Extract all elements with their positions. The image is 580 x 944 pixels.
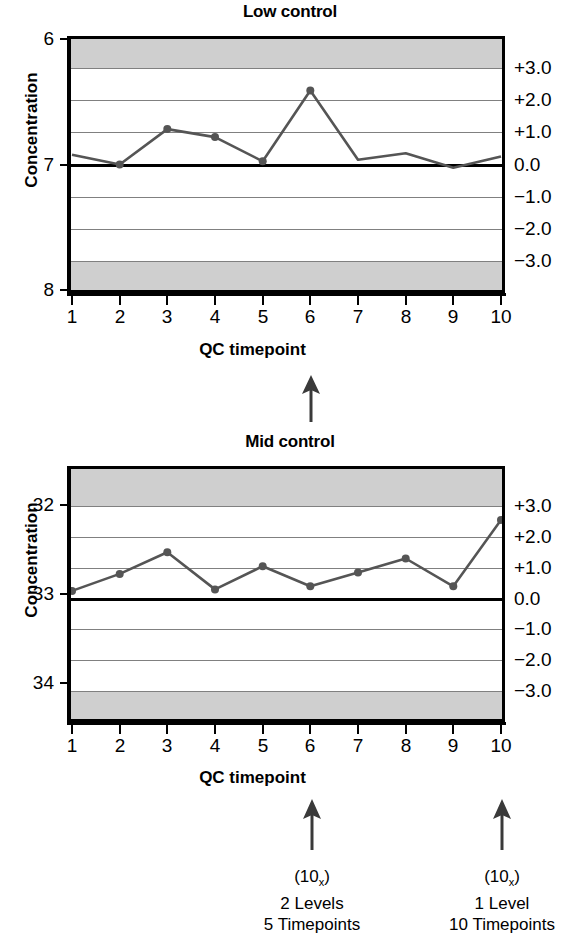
note-left-line3: 5 Timepoints (222, 914, 402, 935)
x-axis-label: 5 (243, 306, 283, 328)
up-arrow-icon-left-note (297, 798, 327, 852)
data-point-marker (163, 125, 171, 133)
data-point-marker (163, 548, 171, 556)
x-axis-tick (71, 725, 73, 734)
x-axis-tick (214, 296, 216, 305)
sd-axis-label: +2.0 (514, 89, 552, 111)
sd-axis-label: −2.0 (514, 649, 552, 671)
x-axis-label: 3 (147, 735, 187, 757)
sd-axis-label: +1.0 (514, 557, 552, 579)
x-axis-tick (166, 725, 168, 734)
x-axis-label: 4 (195, 735, 235, 757)
chart-panel-low-control: Low control 876 −3.0−2.0−1.00.0+1.0+2.0+… (0, 0, 580, 360)
x-axis-spine (67, 293, 506, 296)
x-axis-label: 2 (100, 306, 140, 328)
series-line-low-control (71, 39, 502, 290)
x-axis-tick (309, 296, 311, 305)
note-right-line3: 10 Timepoints (412, 914, 580, 935)
x-axis-label: 8 (386, 735, 426, 757)
sd-axis-label: +2.0 (514, 526, 552, 548)
x-axis-tick (452, 725, 454, 734)
x-axis-tick (309, 725, 311, 734)
series-polyline (72, 520, 501, 591)
data-point-marker (354, 568, 362, 576)
data-point-marker (449, 582, 457, 590)
sd-axis-label: −3.0 (514, 250, 552, 272)
y-axis-label: 8 (2, 279, 54, 301)
data-point-marker (306, 87, 314, 95)
x-axis-tick (119, 296, 121, 305)
sd-axis-label: −2.0 (514, 218, 552, 240)
note-left: (10x) 2 Levels 5 Timepoints (222, 866, 402, 935)
sd-axis-label: −1.0 (514, 618, 552, 640)
data-point-marker (71, 587, 76, 595)
x-axis-label: 6 (290, 306, 330, 328)
x-axis-label: 3 (147, 306, 187, 328)
chart-title-mid-control: Mid control (0, 432, 580, 452)
x-axis-label: 9 (433, 306, 473, 328)
y-axis-title-low-control: Concentration (22, 60, 42, 200)
x-axis-label: 7 (338, 306, 378, 328)
x-axis-label: 1 (52, 306, 92, 328)
note-left-line1: (10x) (222, 866, 402, 893)
data-point-marker (116, 570, 124, 578)
x-axis-tick (262, 725, 264, 734)
figure-root: Low control 876 −3.0−2.0−1.00.0+1.0+2.0+… (0, 0, 580, 944)
data-point-marker (211, 133, 219, 141)
note-right: (10x) 1 Level 10 Timepoints (412, 866, 580, 935)
x-axis-spine (67, 722, 506, 725)
x-axis-tick (500, 296, 502, 305)
x-axis-tick (71, 296, 73, 305)
x-axis-tick (262, 296, 264, 305)
data-point-marker (211, 585, 219, 593)
x-axis-title-mid-control: QC timepoint (34, 768, 471, 788)
x-axis-tick (405, 296, 407, 305)
x-axis-label: 8 (386, 306, 426, 328)
sd-axis-label: 0.0 (514, 588, 540, 610)
up-arrow-icon-between-charts (296, 374, 326, 424)
x-axis-label: 9 (433, 735, 473, 757)
x-axis-label: 10 (481, 735, 521, 757)
x-axis-tick (405, 725, 407, 734)
x-axis-label: 1 (52, 735, 92, 757)
x-axis-tick (452, 296, 454, 305)
x-axis-label: 2 (100, 735, 140, 757)
x-axis-tick (214, 725, 216, 734)
x-axis-label: 7 (338, 735, 378, 757)
x-axis-tick (166, 296, 168, 305)
sd-axis-label: −3.0 (514, 680, 552, 702)
data-point-marker (402, 555, 410, 563)
data-point-marker (259, 157, 267, 165)
note-right-line2: 1 Level (412, 893, 580, 914)
sd-axis-label: +3.0 (514, 495, 552, 517)
sd-axis-label: +1.0 (514, 121, 552, 143)
x-axis-tick (357, 725, 359, 734)
y-axis-label: 34 (2, 672, 54, 694)
x-axis-tick (119, 725, 121, 734)
plot-area-low-control (68, 36, 505, 293)
plot-area-mid-control (68, 466, 505, 722)
x-axis-label: 6 (290, 735, 330, 757)
series-line-mid-control (71, 469, 502, 719)
x-axis-label: 5 (243, 735, 283, 757)
note-left-line2: 2 Levels (222, 893, 402, 914)
chart-panel-mid-control: Mid control 343332 −3.0−2.0−1.00.0+1.0+2… (0, 430, 580, 790)
sd-axis-label: 0.0 (514, 154, 540, 176)
chart-title-low-control: Low control (0, 2, 580, 22)
series-polyline (72, 91, 501, 168)
y-axis-spine (67, 36, 70, 293)
x-axis-label: 4 (195, 306, 235, 328)
x-axis-title-low-control: QC timepoint (34, 340, 471, 360)
sd-axis-label: +3.0 (514, 57, 552, 79)
data-point-marker (306, 582, 314, 590)
y-axis-title-mid-control: Concentration (22, 490, 42, 630)
x-axis-label: 10 (481, 306, 521, 328)
note-right-line1: (10x) (412, 866, 580, 893)
y-axis-label: 6 (2, 28, 54, 50)
data-point-marker (116, 161, 124, 169)
sd-axis-label: −1.0 (514, 186, 552, 208)
x-axis-tick (500, 725, 502, 734)
data-point-marker (259, 562, 267, 570)
up-arrow-icon-right-note (487, 798, 517, 852)
x-axis-tick (357, 296, 359, 305)
